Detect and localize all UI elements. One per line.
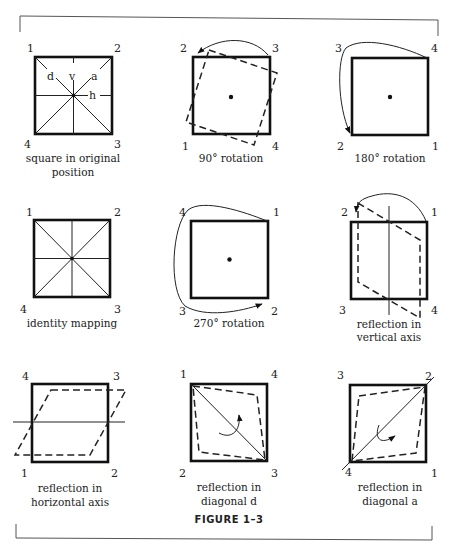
axis-label-a: a xyxy=(91,70,98,83)
diagonal-d-line xyxy=(35,57,47,69)
corner-label: 4 xyxy=(431,304,438,317)
center-dot xyxy=(388,95,392,99)
center-dot xyxy=(227,257,231,261)
symmetries-of-square-figure: d v a h 1 2 4 3 square in original posit… xyxy=(0,0,456,554)
corner-label: 1 xyxy=(431,467,438,480)
reflection-arrow xyxy=(219,415,239,435)
panel-caption: reflection in xyxy=(38,482,103,494)
corner-label: 2 xyxy=(179,467,186,480)
corner-label: 4 xyxy=(22,370,29,383)
panel-caption: position xyxy=(52,166,95,178)
reflection-arrow xyxy=(377,425,395,440)
diagonal-a-line xyxy=(100,57,112,69)
panel-caption: square in original xyxy=(26,152,121,164)
corner-label: 3 xyxy=(272,42,279,55)
corner-label: 2 xyxy=(114,206,121,219)
panel-rot90: 2 3 1 4 90° rotation xyxy=(180,40,279,164)
corner-label: 2 xyxy=(341,206,348,219)
reflection-arrow xyxy=(356,194,426,221)
corner-label: 4 xyxy=(24,138,31,151)
panel-caption: reflection in xyxy=(357,318,422,330)
panel-caption: diagonal a xyxy=(362,495,417,507)
panel-caption: reflection in xyxy=(358,481,423,493)
panel-caption: 90° rotation xyxy=(199,152,264,164)
corner-label: 3 xyxy=(114,138,121,151)
panel-caption: 180° rotation xyxy=(354,152,425,164)
panel-caption: reflection in xyxy=(197,481,262,493)
panel-caption: diagonal d xyxy=(201,495,257,507)
corner-label: 4 xyxy=(20,303,27,316)
corner-label: 1 xyxy=(21,467,28,480)
corner-label: 1 xyxy=(273,206,280,219)
axis-label-d: d xyxy=(47,70,54,83)
corner-label: 4 xyxy=(345,466,352,479)
corner-label: 2 xyxy=(180,42,187,55)
bottom-frame-bracket xyxy=(16,524,432,540)
corner-label: 3 xyxy=(339,304,346,317)
corner-label: 1 xyxy=(432,140,439,153)
corner-label: 1 xyxy=(431,206,438,219)
panel-identity: 1 2 4 3 identity mapping xyxy=(20,206,121,329)
corner-label: 1 xyxy=(26,206,33,219)
corner-label: 1 xyxy=(27,42,34,55)
corner-label: 2 xyxy=(425,370,432,383)
corner-label: 2 xyxy=(111,467,118,480)
axis-label-h: h xyxy=(89,89,96,102)
corner-label: 1 xyxy=(182,140,189,153)
panel-caption: 270° rotation xyxy=(193,317,264,329)
center-dot xyxy=(229,95,233,99)
diagonal-d-line xyxy=(191,384,267,461)
corner-label: 3 xyxy=(337,369,344,382)
corner-label: 3 xyxy=(179,305,186,318)
square xyxy=(32,384,108,462)
panel-refl-horizontal: 4 3 1 2 reflection in horizontal axis xyxy=(13,370,126,508)
panel-caption: horizontal axis xyxy=(31,496,109,508)
corner-label: 4 xyxy=(272,140,279,153)
corner-label: 1 xyxy=(180,368,187,381)
panel-caption: identity mapping xyxy=(27,317,118,329)
corner-label: 3 xyxy=(114,303,121,316)
panel-rot180: 3 4 2 1 180° rotation xyxy=(335,42,439,164)
corner-label: 2 xyxy=(337,140,344,153)
panel-caption: vertical axis xyxy=(356,331,422,343)
corner-label: 3 xyxy=(271,467,278,480)
figure-title: FIGURE 1–3 xyxy=(195,514,264,525)
center-dot xyxy=(72,94,76,98)
top-frame-bracket xyxy=(20,16,438,36)
corner-label: 4 xyxy=(431,42,438,55)
corner-label: 2 xyxy=(114,42,121,55)
reflected-square-outline xyxy=(352,387,425,461)
panel-refl-diag-a: 3 2 4 1 reflection in diagonal a xyxy=(337,369,438,507)
corner-label: 2 xyxy=(271,305,278,318)
corner-label: 3 xyxy=(335,42,342,55)
corner-label: 4 xyxy=(271,368,278,381)
panel-rot270: 4 1 3 2 270° rotation xyxy=(174,205,280,329)
corner-label: 3 xyxy=(113,370,120,383)
panel-refl-diag-d: 1 4 2 3 reflection in diagonal d FIGURE … xyxy=(179,368,278,525)
panel-original: d v a h 1 2 4 3 square in original posit… xyxy=(24,42,121,178)
panel-refl-vertical: 2 1 3 4 reflection in vertical axis xyxy=(339,194,438,343)
center-dot xyxy=(70,257,74,261)
corner-label: 4 xyxy=(179,206,186,219)
axis-label-v: v xyxy=(68,70,76,83)
